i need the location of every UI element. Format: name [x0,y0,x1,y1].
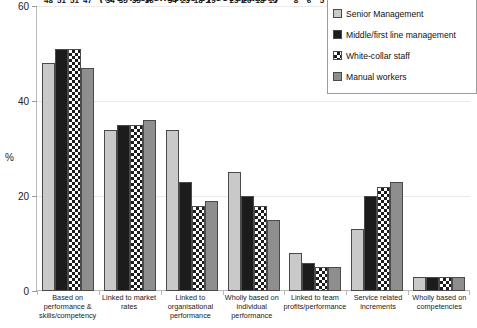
bar-value-label: 18 [194,0,203,5]
bar[interactable]: 23 [179,182,192,291]
legend-swatch-icon [333,72,342,81]
bar[interactable]: 3 [452,277,465,291]
bar[interactable]: 6 [302,263,315,292]
legend-label: Senior Management [346,9,423,19]
bar[interactable]: 22 [377,187,390,292]
bar[interactable]: 35 [130,125,143,291]
legend-swatch-icon [333,51,342,60]
legend-label: White-collar staff [346,51,410,61]
bar-value-label: 6 [307,0,311,5]
bar[interactable]: 36 [143,120,156,291]
bar-value-label: 36 [145,0,154,5]
bar[interactable]: 8 [289,253,302,291]
legend-item[interactable]: Middle/first line management [333,24,472,45]
bar[interactable]: 18 [192,206,205,292]
bar[interactable]: 51 [68,49,81,291]
bar[interactable]: 23 [390,182,403,291]
x-axis-category-label: Service related increments [347,293,408,321]
bar-value-label: 35 [119,0,128,5]
y-tick-label: 0 [23,286,29,297]
bar-value-label: 25 [230,0,239,5]
bar[interactable]: 5 [315,267,328,291]
x-axis-category-label: Linked to organisational performance [160,293,221,321]
y-axis-title: % [5,152,14,163]
bar-group: 34231819 [161,6,223,291]
bar[interactable]: 18 [254,206,267,292]
bar-group: 34353536 [99,6,161,291]
bar[interactable]: 51 [55,49,68,291]
bar[interactable]: 47 [81,68,94,291]
bar[interactable]: 34 [104,130,117,292]
y-tick-label: 20 [18,191,29,202]
x-axis-category-label: Wholly based on competencies [409,293,470,321]
legend-swatch-icon [333,30,342,39]
bar-value-label: 19 [207,0,216,5]
legend-item[interactable]: Manual workers [333,66,472,87]
bar[interactable]: 35 [117,125,130,291]
bar-value-label: 5 [320,0,324,5]
bar-value-label: 18 [256,0,265,5]
bar-value-label: 34 [168,0,177,5]
y-tick-label: 40 [18,96,29,107]
x-axis-category-label: Wholly based on individual performance [221,293,282,321]
bar-value-label: 23 [181,0,190,5]
bar-value-label: 51 [57,0,66,5]
bar[interactable]: 19 [205,201,218,291]
bar[interactable]: 25 [228,172,241,291]
legend: Senior ManagementMiddle/first line manag… [327,0,477,94]
bar-value-label: 15 [269,0,278,5]
x-axis-labels: Based on performance & skills/competency… [37,293,470,321]
legend-item[interactable]: White-collar staff [333,45,472,66]
bar[interactable]: 20 [241,196,254,291]
legend-label: Manual workers [346,72,407,82]
legend-label: Middle/first line management [346,30,456,40]
y-tick-label: 60 [18,1,29,12]
bar-group: 48515147 [37,6,99,291]
x-axis-category-label: Based on performance & skills/competency [37,293,98,321]
legend-item[interactable]: Senior Management [333,3,472,24]
bar-chart: (% of respondents by occupation) % 02040… [0,0,477,328]
bar[interactable]: 3 [426,277,439,291]
bar[interactable]: 13 [351,229,364,291]
bar-value-label: 8 [294,0,298,5]
bar[interactable]: 48 [42,63,55,291]
bar[interactable]: 5 [328,267,341,291]
x-axis-category-label: Linked to team profits/performance [282,293,347,321]
bar[interactable]: 3 [439,277,452,291]
bar-value-label: 48 [44,0,53,5]
bar-group: 25201815 [223,6,285,291]
bar-value-label: 20 [243,0,252,5]
bar-value-label: 51 [70,0,79,5]
bar[interactable]: 34 [166,130,179,292]
bar-value-label: 34 [106,0,115,5]
x-axis-category-label: Linked to market rates [98,293,159,321]
bar[interactable]: 15 [267,220,280,291]
legend-swatch-icon [333,9,342,18]
bar[interactable]: 20 [364,196,377,291]
bar-value-label: 35 [132,0,141,5]
bar[interactable]: 3 [413,277,426,291]
bar-value-label: 47 [83,0,92,5]
